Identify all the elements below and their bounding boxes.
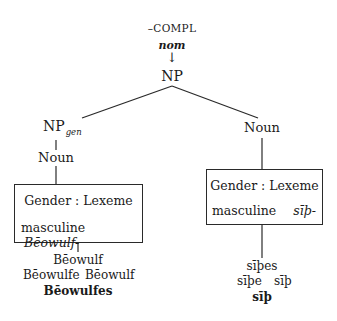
right-box-lexeme: sīþ-	[293, 203, 316, 218]
left-node-noun: Noun	[38, 150, 74, 165]
right-gender-lexeme-box: Gender : Lexeme masculine sīþ-	[206, 169, 323, 225]
right-form-2-left: sīþe	[237, 274, 262, 288]
left-form-1: Bēowulf	[53, 253, 102, 267]
right-form-1: sīþes	[247, 259, 278, 273]
left-form-2-left: Bēowulfe	[23, 268, 80, 282]
right-form-2-right: sīþ	[274, 274, 292, 288]
edge-np-to-npgen	[82, 86, 172, 118]
left-box-lexeme: Bēowulf-	[24, 235, 79, 250]
node-np-gen: NPgen	[43, 118, 82, 134]
edge-np-to-noun	[172, 86, 258, 118]
left-box-header: Gender : Lexeme	[15, 193, 142, 208]
left-box-gender: masculine	[21, 220, 85, 235]
right-box-gender: masculine	[212, 203, 276, 218]
left-form-selected: Bēowulfes	[44, 284, 113, 298]
right-form-selected: sīþ	[252, 290, 272, 304]
node-np-gen-subscript: gen	[66, 127, 82, 137]
left-box-values: masculine Bēowulf-	[21, 220, 142, 250]
right-box-header: Gender : Lexeme	[207, 178, 322, 193]
right-box-values: masculine sīþ-	[212, 203, 316, 218]
right-node-noun: Noun	[244, 120, 280, 135]
left-gender-lexeme-box: Gender : Lexeme masculine Bēowulf-	[14, 184, 143, 243]
left-form-2-right: Bēowulf	[85, 268, 134, 282]
root-feature-label: –COMPL	[148, 22, 196, 34]
root-node-np: NP	[161, 68, 183, 84]
down-arrow-icon: ↓	[167, 50, 178, 65]
node-np-gen-label: NP	[43, 118, 65, 134]
